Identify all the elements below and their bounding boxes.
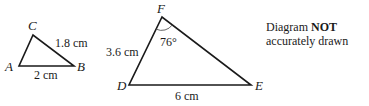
- vertex-label-b: B: [77, 59, 85, 74]
- side-label-ab: 2 cm: [34, 68, 58, 82]
- side-label-df: 3.6 cm: [106, 45, 139, 59]
- side-label-de: 6 cm: [175, 89, 199, 103]
- note-line-2: accurately drawn: [266, 34, 348, 48]
- triangle-def: [129, 17, 251, 85]
- angle-label-f: 76°: [160, 35, 177, 49]
- vertex-label-e: E: [254, 78, 263, 93]
- vertex-label-a: A: [4, 59, 13, 74]
- vertex-label-d: D: [116, 78, 127, 93]
- note-bold: NOT: [311, 20, 337, 34]
- note-prefix: Diagram: [266, 20, 311, 34]
- vertex-label-f: F: [156, 1, 166, 16]
- side-label-bc: 1.8 cm: [55, 36, 88, 50]
- note-line-1: Diagram NOT: [266, 20, 348, 34]
- not-to-scale-note: Diagram NOT accurately drawn: [266, 20, 348, 48]
- vertex-label-c: C: [28, 18, 37, 33]
- diagram-canvas: C A B 1.8 cm 2 cm F D E 3.6 cm 6 cm 76°: [0, 0, 369, 106]
